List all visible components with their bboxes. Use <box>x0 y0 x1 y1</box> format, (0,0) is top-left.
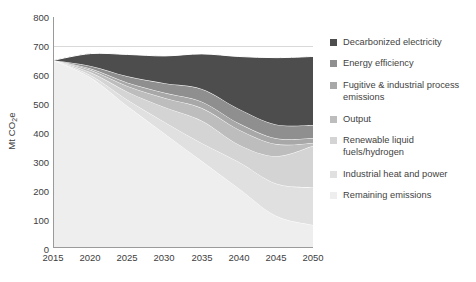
legend-swatch-icon <box>330 137 337 144</box>
legend-item-industrial-heat-and-power[interactable]: Industrial heat and power <box>330 168 476 180</box>
legend-item-renewable-liquid-fuels-hydrogen[interactable]: Renewable liquid fuels/hydrogen <box>330 134 476 159</box>
legend-swatch-icon <box>330 39 337 46</box>
x-tick-2045: 2045 <box>256 252 296 263</box>
x-tick-2020: 2020 <box>70 252 110 263</box>
chart-figure: Mt CO2e 800 700 600 500 400 300 200 100 … <box>0 0 476 282</box>
x-tick-2035: 2035 <box>182 252 222 263</box>
x-tick-2015: 2015 <box>33 252 73 263</box>
legend-item-label: Fugitive & industrial process emissions <box>343 79 459 104</box>
stacked-area-bands <box>54 53 314 247</box>
legend-item-label: Output <box>343 113 371 125</box>
legend-item-output[interactable]: Output <box>330 113 476 125</box>
x-tick-2030: 2030 <box>144 252 184 263</box>
legend-swatch-icon <box>330 171 337 178</box>
legend-item-decarbonized-electricity[interactable]: Decarbonized electricity <box>330 36 476 48</box>
legend-item-label: Decarbonized electricity <box>343 36 442 48</box>
legend-item-label: Industrial heat and power <box>343 168 447 180</box>
legend-swatch-icon <box>330 82 337 89</box>
x-tick-2040: 2040 <box>219 252 259 263</box>
legend-item-label: Energy efficiency <box>343 57 414 69</box>
legend-item-remaining-emissions[interactable]: Remaining emissions <box>330 189 476 201</box>
chart-legend: Decarbonized electricity Energy efficien… <box>330 36 476 211</box>
x-axis-tick-labels: 2015 2020 2025 2030 2035 2040 2045 2050 <box>0 252 330 268</box>
legend-item-label: Renewable liquid fuels/hydrogen <box>343 134 414 159</box>
legend-item-label: Remaining emissions <box>343 189 431 201</box>
legend-item-fugitive-industrial-process-emissions[interactable]: Fugitive & industrial process emissions <box>330 79 476 104</box>
x-tick-2050: 2050 <box>293 252 333 263</box>
legend-item-energy-efficiency[interactable]: Energy efficiency <box>330 57 476 69</box>
legend-swatch-icon <box>330 60 337 67</box>
legend-swatch-icon <box>330 192 337 199</box>
legend-swatch-icon <box>330 116 337 123</box>
x-tick-2025: 2025 <box>107 252 147 263</box>
